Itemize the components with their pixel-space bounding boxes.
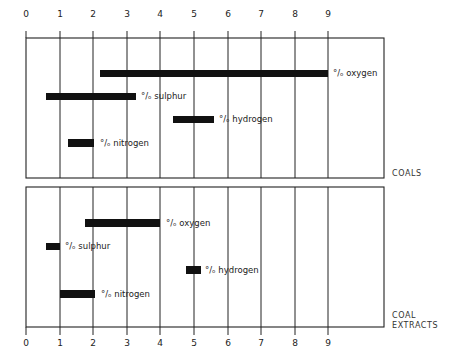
extracts-sulphur-label: °/ₒ sulphur — [65, 241, 111, 251]
bottom-axis: 0 1 2 3 4 5 6 7 8 9 — [23, 338, 331, 348]
bottom-tick-4: 4 — [157, 338, 163, 348]
coals-oxygen-bar — [100, 70, 328, 77]
top-tick-9: 9 — [325, 9, 331, 19]
extracts-hydrogen-bar — [186, 266, 201, 274]
coals-sulphur-bar — [46, 93, 136, 100]
extracts-nitrogen-bar — [60, 290, 95, 298]
top-tick-4: 4 — [157, 9, 163, 19]
top-tick-6: 6 — [225, 9, 231, 19]
extracts-frame — [26, 187, 384, 327]
coals-hydrogen-bar — [173, 116, 214, 123]
coals-sulphur-label: °/ₒ sulphur — [141, 91, 187, 101]
bottom-tick-8: 8 — [292, 338, 298, 348]
bottom-tick-5: 5 — [191, 338, 197, 348]
top-tick-marks — [26, 31, 328, 38]
top-tick-1: 1 — [57, 9, 63, 19]
top-tick-3: 3 — [124, 9, 130, 19]
extracts-hydrogen-label: °/ₒ hydrogen — [205, 265, 259, 275]
extracts-nitrogen-label: °/ₒ nitrogen — [101, 289, 150, 299]
bottom-tick-7: 7 — [258, 338, 264, 348]
coals-hydrogen-label: °/ₒ hydrogen — [219, 114, 273, 124]
top-tick-8: 8 — [292, 9, 298, 19]
coals-nitrogen-label: °/ₒ nitrogen — [100, 138, 149, 148]
extracts-sulphur-bar — [46, 243, 60, 250]
bottom-tick-9: 9 — [325, 338, 331, 348]
top-axis: 0 1 2 3 4 5 6 7 8 9 — [23, 9, 331, 19]
bottom-tick-0: 0 — [23, 338, 29, 348]
bottom-tick-6: 6 — [225, 338, 231, 348]
coals-frame — [26, 38, 384, 178]
coals-oxygen-label: °/ₒ oxygen — [333, 68, 377, 78]
extracts-gridlines — [60, 187, 328, 327]
extracts-panel-label-line1: COAL — [392, 311, 416, 320]
top-tick-5: 5 — [191, 9, 197, 19]
extracts-panel-label-line2: EXTRACTS — [392, 321, 438, 330]
bottom-tick-marks — [26, 327, 328, 335]
top-tick-7: 7 — [258, 9, 264, 19]
bottom-tick-2: 2 — [90, 338, 96, 348]
coals-nitrogen-bar — [68, 139, 94, 147]
coals-panel-label: COALS — [392, 169, 422, 178]
extracts-oxygen-label: °/ₒ oxygen — [166, 218, 210, 228]
extracts-oxygen-bar — [85, 219, 160, 227]
top-tick-2: 2 — [90, 9, 96, 19]
bottom-tick-1: 1 — [57, 338, 63, 348]
top-tick-0: 0 — [23, 9, 29, 19]
coals-gridlines — [60, 38, 328, 178]
bottom-tick-3: 3 — [124, 338, 130, 348]
extracts-panel: °/ₒ oxygen °/ₒ sulphur °/ₒ hydrogen °/ₒ … — [26, 187, 438, 330]
coals-panel: °/ₒ oxygen °/ₒ sulphur °/ₒ hydrogen °/ₒ … — [26, 38, 422, 178]
chart-canvas: 0 1 2 3 4 5 6 7 8 9 — [0, 0, 457, 361]
